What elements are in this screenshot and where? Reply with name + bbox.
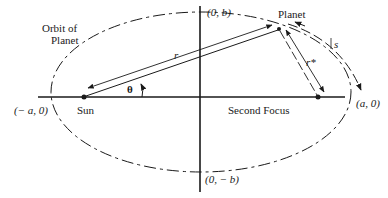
bottom-vertex-label: (0, − b) [205, 173, 239, 186]
s-tick-arrow [295, 22, 305, 26]
orbit-diagram: Orbit of Planet Planet Sun Second Focus … [0, 0, 388, 198]
r-star-dimension-arrow [286, 30, 324, 92]
r-star-label: r* [306, 56, 316, 68]
planet-label: Planet [278, 8, 306, 20]
r-dimension-arrow [88, 25, 272, 88]
orbit-label-line1: Orbit of [42, 22, 77, 34]
orbit-ellipse [51, 12, 351, 172]
s-label: s [334, 38, 338, 50]
orbit-label-line2: Planet [51, 34, 79, 46]
second-focus-dot [316, 95, 321, 100]
radius-vector-r [86, 30, 278, 96]
left-vertex-label: (− a, 0) [14, 104, 48, 117]
right-vertex-label: (a, 0) [356, 97, 380, 110]
second-focus-label: Second Focus [228, 104, 289, 116]
theta-arc [141, 84, 143, 97]
theta-label: θ [127, 83, 133, 95]
s-arc-arrow [288, 24, 361, 90]
sun-label: Sun [77, 104, 95, 116]
r-label: r [174, 49, 179, 61]
sun-dot [82, 95, 87, 100]
top-vertex-label: (0, b) [207, 6, 231, 19]
